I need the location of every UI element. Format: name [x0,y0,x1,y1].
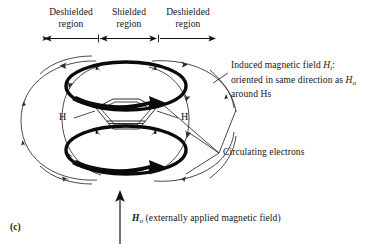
region-label-shielded-center-line1: Shielded [100,7,158,19]
field-lines-right [149,61,236,182]
field-arrow-left-top [60,63,67,69]
region-label-deshielded-right: Deshielded region [155,7,221,30]
region-label-shielded-center: Shielded region [100,7,158,30]
region-label-deshielded-left-line2: region [38,19,104,31]
applied-field-symbol: H [132,213,140,223]
annotation-circulating-electrons: Circulating electrons [223,147,305,159]
hydrogen-right-label: H [181,111,188,122]
annotation-induced-magnetic-field: Induced magnetic field Hi: oriented in s… [231,60,381,101]
induced-field-line3: around Hs [231,89,381,101]
circulating-electrons-leader-lower [186,153,219,174]
applied-field-description: (externally applied magnetic field) [143,213,281,223]
region-label-deshielded-right-line2: region [155,19,221,31]
hydrogen-left-label: H [59,111,66,122]
region-label-deshielded-right-line1: Deshielded [155,7,221,19]
hydrogen-left-leader [74,111,95,118]
field-line-right-outer-bottom [154,132,234,181]
region-label-deshielded-left-line1: Deshielded [38,7,104,19]
field-arrow-right-top [181,61,188,67]
induced-field-line2-prefix: oriented in same direction as [231,75,346,85]
field-arrow-left-upper [22,99,26,106]
field-arrow-right-upper [224,94,229,101]
annotation-applied-magnetic-field: Ho (externally applied magnetic field) [132,213,281,228]
figure-panel-c: Deshielded region Shielded region Deshie… [0,0,383,248]
applied-field-symbol-inline-subscript: o [353,79,357,87]
region-label-deshielded-left: Deshielded region [38,7,104,30]
field-arrow-right-bottom [179,177,186,183]
region-measure-bar [44,35,216,43]
induced-field-line1-prefix: Induced magnetic field [231,60,323,70]
annotation-leaders [160,73,236,174]
applied-field-arrow [115,190,125,244]
diagram-canvas [0,0,383,248]
field-arrow-right-inner-top [185,94,191,102]
ring-current-lower [66,126,186,174]
ring-current-lower-arrow [72,160,166,174]
panel-letter: (c) [10,222,21,232]
induced-field-line1-suffix: : [332,60,335,70]
applied-field-symbol-inline: H [346,75,353,85]
circulating-electrons-leader-upper [188,132,219,153]
circulating-electrons-leader-top [160,102,219,153]
region-label-shielded-center-line2: region [100,19,158,31]
